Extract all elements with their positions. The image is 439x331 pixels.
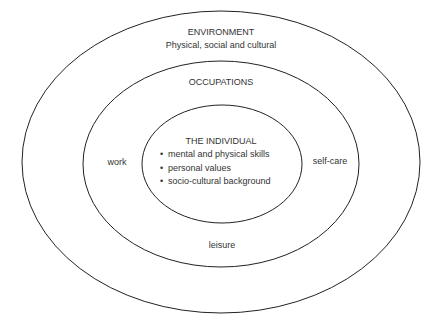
individual-bullet: socio-cultural background <box>160 175 271 189</box>
individual-title: THE INDIVIDUAL <box>185 136 256 147</box>
environment-subtitle: Physical, social and cultural <box>166 40 277 51</box>
occupation-leisure: leisure <box>209 240 236 251</box>
individual-bullet-list: mental and physical skills personal valu… <box>160 148 271 189</box>
occupation-work: work <box>107 157 126 168</box>
individual-bullet: mental and physical skills <box>160 148 271 162</box>
occupations-title: OCCUPATIONS <box>189 77 254 88</box>
occupation-self-care: self-care <box>313 156 348 167</box>
individual-bullet: personal values <box>160 162 271 176</box>
environment-title: ENVIRONMENT <box>188 27 255 38</box>
